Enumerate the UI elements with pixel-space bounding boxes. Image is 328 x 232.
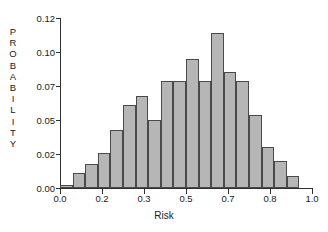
y-axis-tick-label: 0.07 [27, 81, 55, 92]
histogram-bar [262, 147, 275, 188]
y-axis-tick-label: 0.00 [27, 183, 55, 194]
y-axis-title-letter: L [10, 104, 15, 115]
histogram-bar [274, 161, 287, 188]
histogram-bar [249, 115, 262, 188]
y-axis-title-letter: Y [10, 138, 16, 149]
x-axis-tick-labels: 0.00.20.30.50.70.81.0 [0, 193, 328, 207]
y-axis-title-letter: B [10, 60, 16, 71]
histogram-bar [236, 81, 249, 188]
x-axis-tick-label: 0.7 [221, 193, 234, 204]
histogram-bar [186, 59, 199, 188]
x-axis-tick-label: 0.2 [95, 193, 108, 204]
x-axis-tick-label: 1.0 [305, 193, 318, 204]
y-axis-tick-label: 0.05 [27, 115, 55, 126]
histogram-bar [110, 130, 123, 188]
histogram-bar [199, 81, 212, 188]
y-axis-title-letter: T [10, 127, 16, 138]
histogram-bar [224, 72, 237, 188]
y-axis-title-letter: I [12, 116, 15, 127]
y-axis-title-letter: R [10, 37, 17, 48]
histogram-bar [98, 153, 111, 188]
x-axis-tick-label: 0.0 [53, 193, 66, 204]
x-axis-tick-label: 0.3 [137, 193, 150, 204]
y-axis-title-letter: A [10, 71, 16, 82]
histogram-bar [123, 105, 136, 188]
histogram-bar [60, 185, 73, 188]
histogram-bar [211, 33, 224, 188]
y-axis-title-letter: B [10, 82, 16, 93]
y-axis-title-letter: O [9, 48, 16, 59]
plot-area [60, 18, 312, 188]
histogram-bar [85, 164, 98, 188]
y-axis-tick-label: 0.02 [27, 149, 55, 160]
y-axis-tick-label: 0.10 [27, 47, 55, 58]
y-axis-tick-label: 0.12 [27, 13, 55, 24]
histogram-bars [60, 18, 312, 188]
y-axis-title-letter: I [12, 93, 15, 104]
histogram-bar [148, 120, 161, 188]
histogram-bar [161, 81, 174, 188]
x-axis-tick-label: 0.8 [263, 193, 276, 204]
histogram-bar [73, 173, 86, 188]
histogram-bar [287, 176, 300, 188]
y-axis-title: PROBABILITY [6, 26, 20, 149]
histogram-bar [136, 96, 149, 188]
x-axis-tick-label: 0.5 [179, 193, 192, 204]
y-axis-title-letter: P [10, 26, 16, 37]
x-axis-title: Risk [0, 210, 328, 221]
histogram-bar [173, 81, 186, 188]
probability-histogram-figure: PROBABILITY 0.000.020.050.070.100.12 0.0… [0, 0, 328, 232]
